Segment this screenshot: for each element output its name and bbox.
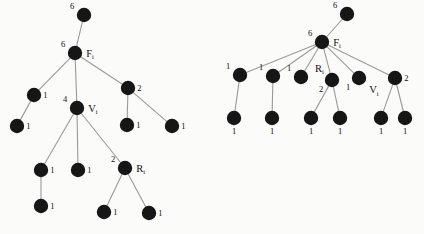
tree-node (398, 111, 412, 125)
node-weight-label: 6 (61, 39, 65, 49)
node-weight-label: 6 (333, 0, 337, 10)
node-weight-label: 6 (70, 1, 74, 11)
node-weight-label: 1 (50, 165, 54, 175)
tree-edge (133, 92, 167, 121)
node-weight-label: 2 (404, 73, 408, 83)
node-symbol-label: Vi (369, 84, 379, 96)
node-weight-label: 1 (136, 120, 140, 130)
node-symbol-label: Fi (86, 48, 94, 60)
tree-node (71, 163, 85, 177)
tree-edge (20, 101, 31, 120)
node-weight-label: 1 (26, 121, 30, 131)
tree-node (120, 118, 134, 132)
tree-node (265, 111, 279, 125)
node-weight-label: 6 (308, 28, 312, 38)
tree-node (70, 101, 84, 115)
tree-node (325, 73, 339, 87)
node-weight-label: 1 (181, 121, 185, 131)
nodes-layer (10, 7, 412, 220)
node-weight-label: 1 (270, 126, 274, 136)
node-weight-label: 1 (309, 126, 313, 136)
node-weight-label: 1 (50, 201, 54, 211)
tree-edge (107, 174, 122, 206)
tree-edge (75, 60, 77, 102)
tree-edge (328, 45, 389, 75)
node-weight-label: 1 (403, 126, 407, 136)
tree-node (121, 81, 135, 95)
tree-node (340, 7, 354, 21)
node-weight-label: 2 (319, 84, 323, 94)
node-weight-label: 4 (63, 94, 68, 104)
node-weight-label: 2 (111, 154, 115, 164)
tree-edge (77, 115, 78, 164)
tree-node (294, 70, 308, 84)
tree-node (352, 71, 366, 85)
tree-node (227, 111, 241, 125)
node-weight-label: 1 (158, 208, 162, 218)
tree-node (10, 119, 24, 133)
tree-node (233, 68, 247, 82)
node-weight-label: 2 (137, 83, 141, 93)
node-weight-label: 1 (287, 63, 291, 73)
figure-canvas: 66Fi114Vi2111112Ri1166Fi1112Ri1Vi2111111 (0, 0, 424, 234)
tree-edge (324, 48, 331, 73)
node-symbol-label: Fi (333, 37, 341, 49)
tree-edge (326, 19, 342, 37)
tree-node (388, 71, 402, 85)
tree-edge (127, 95, 128, 119)
tree-node (266, 69, 280, 83)
tree-edge (246, 45, 316, 73)
tree-node (34, 199, 48, 213)
node-weight-label: 1 (43, 90, 47, 100)
node-symbol-label: Ri (136, 163, 145, 175)
node-weight-label: 1 (232, 126, 236, 136)
node-weight-label: 1 (87, 165, 91, 175)
node-symbol-label: Ri (315, 63, 324, 75)
tree-node (374, 111, 388, 125)
tree-edge (333, 87, 338, 112)
tree-diagram-svg: 66Fi114Vi2111112Ri1166Fi1112Ri1Vi2111111 (0, 0, 424, 234)
tree-edge (272, 83, 273, 112)
tree-node (68, 46, 82, 60)
tree-edge (128, 174, 146, 207)
tree-node (165, 119, 179, 133)
tree-node (97, 205, 111, 219)
tree-edge (279, 46, 317, 72)
node-weight-label: 1 (338, 126, 342, 136)
tree-edge (81, 57, 123, 85)
tree-node (142, 206, 156, 220)
node-symbol-label: Vi (88, 103, 98, 115)
tree-node (77, 8, 91, 22)
node-weight-label: 1 (379, 126, 383, 136)
node-weight-label: 1 (113, 207, 117, 217)
tree-edge (77, 22, 83, 47)
tree-node (27, 88, 41, 102)
tree-node (333, 111, 347, 125)
tree-node (304, 111, 318, 125)
node-weight-label: 1 (226, 61, 230, 71)
tree-edge (235, 82, 239, 112)
tree-edge (383, 84, 393, 111)
tree-edge (39, 58, 71, 90)
node-weight-label: 1 (259, 62, 263, 72)
node-weight-label: 1 (346, 82, 350, 92)
tree-node (34, 163, 48, 177)
tree-edge (397, 84, 404, 111)
tree-edge (44, 114, 73, 164)
tree-node (118, 161, 132, 175)
tree-node (315, 35, 329, 49)
